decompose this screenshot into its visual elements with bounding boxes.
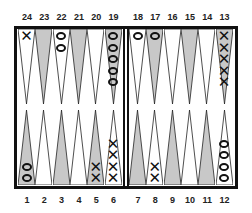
checker-o[interactable] xyxy=(107,76,120,88)
point-18[interactable] xyxy=(129,29,146,104)
checker-x[interactable]: ✕ xyxy=(148,161,161,173)
checker-o[interactable] xyxy=(107,42,120,54)
point-21[interactable] xyxy=(70,29,87,104)
checker-o[interactable] xyxy=(55,42,68,54)
backgammon-board: ✕✕✕✕✕✕✕✕✕✕✕✕✕✕ xyxy=(14,26,238,189)
point-label: 9 xyxy=(164,195,182,205)
point-20[interactable] xyxy=(87,29,104,104)
triangle-shape xyxy=(181,110,198,185)
point-8[interactable]: ✕✕ xyxy=(146,110,163,185)
point-label: 18 xyxy=(129,12,147,22)
point-24[interactable]: ✕ xyxy=(18,29,35,104)
point-label: 2 xyxy=(35,195,53,205)
triangle-shape xyxy=(53,110,70,185)
triangle-shape xyxy=(164,29,181,104)
point-2[interactable] xyxy=(35,110,52,185)
checker-x[interactable]: ✕ xyxy=(107,138,120,150)
triangle-shape xyxy=(164,110,181,185)
o-ring-icon xyxy=(22,163,32,171)
point-23[interactable] xyxy=(35,29,52,104)
point-14[interactable] xyxy=(198,29,215,104)
x-mark-icon: ✕ xyxy=(20,30,33,42)
o-ring-icon xyxy=(108,32,118,40)
triangle-shape xyxy=(198,29,215,104)
o-ring-icon xyxy=(56,32,66,40)
checker-o[interactable] xyxy=(107,53,120,65)
point-label: 20 xyxy=(87,12,105,22)
point-5[interactable]: ✕✕ xyxy=(87,110,104,185)
o-ring-icon xyxy=(219,140,229,148)
o-ring-icon xyxy=(219,163,229,171)
point-7[interactable] xyxy=(129,110,146,185)
o-ring-icon xyxy=(219,151,229,159)
checker-o[interactable] xyxy=(107,65,120,77)
triangle-shape xyxy=(198,110,215,185)
point-3[interactable] xyxy=(53,110,70,185)
o-ring-icon xyxy=(108,67,118,75)
x-mark-icon: ✕ xyxy=(89,161,102,173)
point-label: 4 xyxy=(70,195,88,205)
checker-x[interactable]: ✕ xyxy=(89,161,102,173)
x-mark-icon: ✕ xyxy=(149,161,162,173)
point-label: 15 xyxy=(181,12,199,22)
checker-x[interactable]: ✕ xyxy=(20,30,33,42)
checker-x[interactable]: ✕ xyxy=(218,76,231,88)
point-label: 5 xyxy=(87,195,105,205)
checker-o[interactable] xyxy=(20,161,33,173)
o-ring-icon xyxy=(150,32,160,40)
point-label: 16 xyxy=(164,12,182,22)
point-19[interactable] xyxy=(105,29,122,104)
point-label: 23 xyxy=(35,12,53,22)
point-label: 24 xyxy=(18,12,36,22)
triangle-shape xyxy=(70,29,87,104)
point-10[interactable] xyxy=(181,110,198,185)
checker-o[interactable] xyxy=(55,30,68,42)
checker-o[interactable] xyxy=(218,138,231,150)
triangle-shape xyxy=(129,110,146,185)
point-label: 3 xyxy=(53,195,71,205)
checker-o[interactable] xyxy=(131,30,144,42)
point-12[interactable] xyxy=(216,110,233,185)
point-label: 7 xyxy=(129,195,147,205)
point-label: 19 xyxy=(105,12,123,22)
checker-o[interactable] xyxy=(218,161,231,173)
point-label: 17 xyxy=(146,12,164,22)
o-ring-icon xyxy=(108,78,118,86)
o-ring-icon xyxy=(133,32,143,40)
point-label: 14 xyxy=(198,12,216,22)
point-1[interactable] xyxy=(18,110,35,185)
point-15[interactable] xyxy=(181,29,198,104)
o-ring-icon xyxy=(219,174,229,182)
point-16[interactable] xyxy=(164,29,181,104)
point-6[interactable]: ✕✕✕✕ xyxy=(105,110,122,185)
point-label: 1 xyxy=(18,195,36,205)
point-4[interactable] xyxy=(70,110,87,185)
point-11[interactable] xyxy=(198,110,215,185)
o-ring-icon xyxy=(108,55,118,63)
point-22[interactable] xyxy=(53,29,70,104)
point-label: 12 xyxy=(216,195,234,205)
checker-o[interactable] xyxy=(20,172,33,184)
checker-o[interactable] xyxy=(218,172,231,184)
point-label: 10 xyxy=(181,195,199,205)
checker-o[interactable] xyxy=(107,30,120,42)
o-ring-icon xyxy=(56,44,66,52)
checker-o[interactable] xyxy=(218,149,231,161)
point-17[interactable] xyxy=(146,29,163,104)
checker-o[interactable] xyxy=(148,30,161,42)
triangle-shape xyxy=(35,110,52,185)
point-13[interactable]: ✕✕✕✕✕ xyxy=(216,29,233,104)
triangle-shape xyxy=(35,29,52,104)
point-label: 22 xyxy=(53,12,71,22)
point-9[interactable] xyxy=(164,110,181,185)
point-label: 11 xyxy=(198,195,216,205)
point-label: 13 xyxy=(216,12,234,22)
triangle-shape xyxy=(87,29,104,104)
o-ring-icon xyxy=(22,174,32,182)
point-label: 6 xyxy=(105,195,123,205)
x-mark-icon: ✕ xyxy=(107,138,120,150)
triangle-shape xyxy=(70,110,87,185)
triangle-shape xyxy=(181,29,198,104)
point-label: 21 xyxy=(70,12,88,22)
x-mark-icon: ✕ xyxy=(218,76,231,88)
